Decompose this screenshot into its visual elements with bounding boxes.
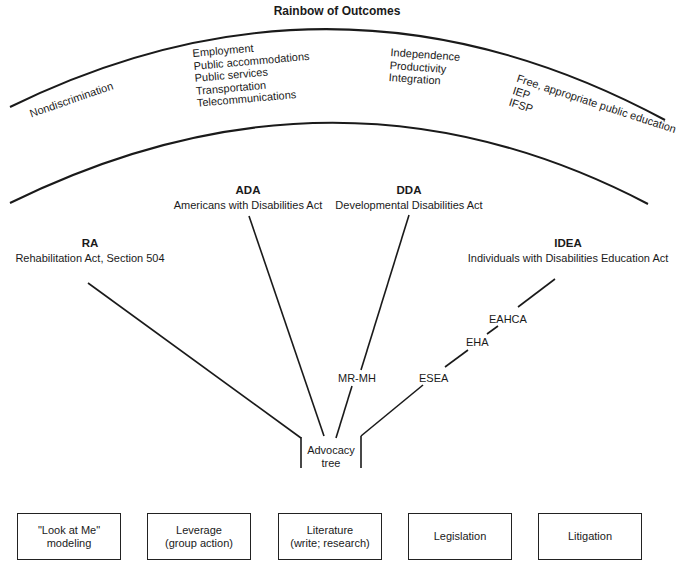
act-ada: ADA Americans with Disabilities Act: [174, 183, 323, 212]
act-abbr: RA: [15, 236, 164, 251]
inner-arc: [10, 123, 648, 204]
act-idea: IDEA Individuals with Disabilities Educa…: [468, 236, 669, 265]
strategy-line: (group action): [165, 537, 233, 550]
strategy-legislation: Legislation: [408, 513, 512, 560]
idea-branch-2: [487, 326, 498, 334]
act-name: Rehabilitation Act, Section 504: [15, 251, 164, 265]
label-esea: ESEA: [418, 372, 449, 384]
strategy-line: Litigation: [568, 530, 612, 543]
diagram-title: Rainbow of Outcomes: [274, 4, 401, 18]
act-name: Americans with Disabilities Act: [174, 198, 323, 212]
act-name: Developmental Disabilities Act: [335, 198, 482, 212]
strategy-line: Legislation: [434, 530, 487, 543]
trunk-line: tree: [307, 457, 355, 470]
ra-branch: [88, 283, 301, 438]
strategy-line: modeling: [38, 537, 100, 550]
strategy-line: (write; research): [290, 537, 369, 550]
strategy-litigation: Litigation: [538, 513, 642, 560]
trunk-label: Advocacy tree: [307, 444, 355, 470]
idea-branch-1: [518, 279, 555, 307]
idea-branch-3: [445, 350, 468, 367]
strategy-leverage: Leverage (group action): [147, 513, 251, 560]
act-ra: RA Rehabilitation Act, Section 504: [15, 236, 164, 265]
act-abbr: IDEA: [468, 236, 669, 251]
label-eahca: EAHCA: [488, 313, 528, 325]
strategy-literature: Literature (write; research): [278, 513, 382, 560]
act-abbr: ADA: [174, 183, 323, 198]
act-abbr: DDA: [335, 183, 482, 198]
trunk-line: Advocacy: [307, 444, 355, 457]
strategy-look-at-me: "Look at Me" modeling: [17, 513, 121, 560]
idea-branch-4: [361, 385, 423, 436]
strategy-line: "Look at Me": [38, 524, 100, 537]
strategy-line: Literature: [290, 524, 369, 537]
strategy-line: Leverage: [165, 524, 233, 537]
ada-branch: [249, 216, 324, 436]
dda-branch-upper: [361, 215, 409, 370]
label-eha: EHA: [465, 336, 490, 348]
act-dda: DDA Developmental Disabilities Act: [335, 183, 482, 212]
outcome-dda: Independence Productivity Integration: [388, 46, 460, 88]
act-name: Individuals with Disabilities Education …: [468, 251, 669, 265]
outcome-ada: Employment Public accommodations Public …: [192, 37, 313, 109]
label-mr-mh: MR-MH: [337, 372, 377, 384]
dda-branch-lower: [336, 386, 352, 438]
